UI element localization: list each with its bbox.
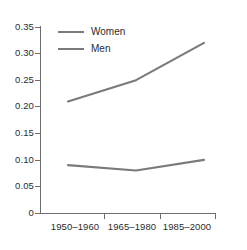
legend-swatch-icon xyxy=(58,48,84,50)
series-line-men xyxy=(68,160,204,171)
legend-label: Women xyxy=(91,27,125,37)
legend-label: Men xyxy=(91,44,110,54)
legend-swatch-icon xyxy=(58,31,84,33)
line-chart: 0.35 0.30 0.25 0.20 0.15 0.10 0.05 0 195… xyxy=(0,0,247,250)
legend-item-women: Women xyxy=(58,25,125,39)
chart-legend: Women Men xyxy=(58,25,125,59)
legend-item-men: Men xyxy=(58,42,125,56)
